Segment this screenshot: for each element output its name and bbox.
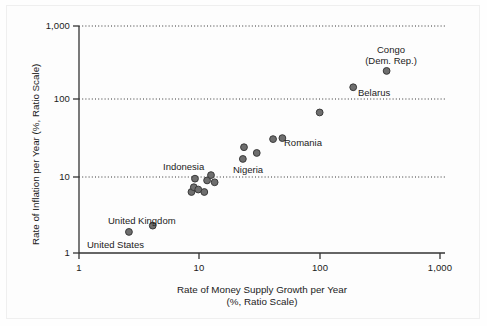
data-point <box>211 179 218 186</box>
annotation-congo-line2: (Dem. Rep.) <box>356 55 426 66</box>
data-point <box>208 172 215 179</box>
x-tick-label-1: 1 <box>59 262 99 273</box>
data-points <box>126 68 390 236</box>
data-point <box>270 136 277 143</box>
data-point <box>126 229 133 236</box>
y-tick-marks <box>73 26 79 253</box>
x-tick-marks <box>79 253 440 259</box>
annotation-indonesia: Indonesia <box>163 161 223 172</box>
scatter-plot-figure: 1,000 100 10 1 1 10 100 1,000 Rate of Mo… <box>0 0 487 326</box>
x-tick-label-1000: 1,000 <box>420 262 460 273</box>
data-point <box>383 68 390 75</box>
annotation-congo-line1: Congo <box>356 44 426 55</box>
annotation-united-states: United States <box>87 239 167 250</box>
y-tick-label-1: 1 <box>30 247 70 258</box>
x-tick-label-100: 100 <box>300 262 340 273</box>
x-axis-title-line2: (%, Ratio Scale) <box>152 296 372 308</box>
annotation-united-kingdom: United Kingdom <box>108 215 208 226</box>
y-tick-label-1000: 1,000 <box>30 20 70 31</box>
data-point <box>316 109 323 116</box>
y-axis-title: Rate of Inflation per Year (%, Ratio Sca… <box>30 64 41 245</box>
annotation-romania: Romania <box>284 137 354 148</box>
data-point <box>192 175 199 182</box>
data-point <box>241 144 248 151</box>
data-point <box>201 189 208 196</box>
x-axis-title-line1: Rate of Money Supply Growth per Year <box>152 284 372 296</box>
data-point <box>350 84 357 91</box>
annotation-nigeria: Nigeria <box>233 164 293 175</box>
data-point <box>253 150 260 157</box>
x-tick-label-10: 10 <box>179 262 219 273</box>
data-point <box>239 156 246 163</box>
annotation-belarus: Belarus <box>358 87 418 98</box>
